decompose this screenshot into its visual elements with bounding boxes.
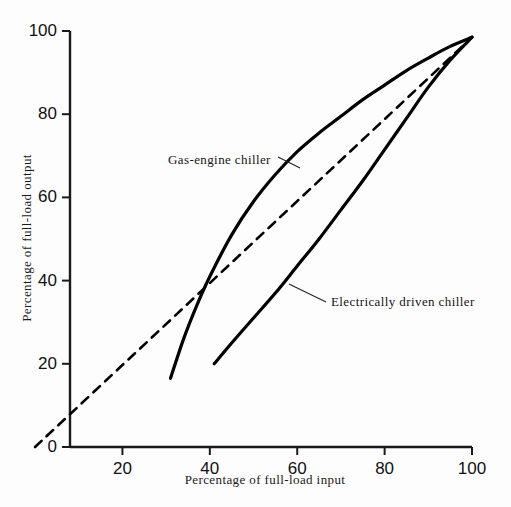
x-axis-ticks [122,447,472,455]
y-tick-label: 40 [38,271,57,291]
chart-figure: 020406080100 20406080100 Percentage of f… [0,0,511,507]
y-tick-label: 80 [38,104,57,124]
x-tick-label: 20 [113,459,132,479]
y-axis-title: Percentage of full-load output [19,154,35,322]
x-tick-label: 100 [458,459,486,479]
data-series [35,37,472,447]
y-tick-label: 20 [38,354,57,374]
x-tick-label: 80 [375,459,394,479]
plot-area [0,0,511,507]
y-tick-label: 0 [48,437,57,457]
series-label-gas-engine-chiller: Gas-engine chiller [168,152,271,168]
y-tick-label: 60 [38,187,57,207]
x-axis-title: Percentage of full-load input [185,472,346,488]
series-line-reference-line-1-1 [35,37,472,447]
y-tick-label: 100 [29,21,57,41]
series-label-electrically-driven-chiller: Electrically driven chiller [331,294,475,310]
leader-line-electric [289,284,326,302]
